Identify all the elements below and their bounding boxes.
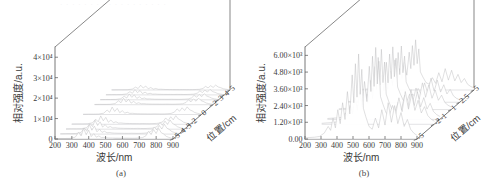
x-tick-label: 400	[331, 141, 343, 150]
z-tick-label: 5	[472, 84, 481, 93]
x-tick-label: 300	[315, 141, 327, 150]
y-tick-label: 3.60×10³	[274, 85, 304, 94]
x-tick-label: 900	[411, 141, 423, 150]
z-axis-label: 位置/cm	[448, 112, 482, 143]
y-tick-label: 1×10⁴	[33, 115, 53, 124]
panel-b-caption: (b)	[243, 168, 485, 178]
x-axis-label: 波长/nm	[96, 151, 133, 163]
y-axis-label: 相对强度/a.u.	[12, 63, 24, 122]
y-tick-label: 2×10⁴	[33, 94, 53, 103]
y-tick-label: 0.00	[289, 135, 303, 144]
y-tick-label: 4×10⁴	[33, 53, 53, 62]
y-tick-label: 6.00×10³	[274, 51, 304, 60]
y-tick-label: 3×10⁴	[33, 74, 53, 83]
y-axis-label: 相对强度/a.u.	[255, 63, 267, 122]
panel-b-plot: 200300400500600700800900波长/nm0.001.20×10…	[243, 0, 485, 194]
x-tick-label: 400	[83, 141, 95, 150]
panel-a-plot: 200300400500600700800900波长/nm01×10⁴2×10⁴…	[0, 0, 242, 194]
x-tick-label: 600	[116, 141, 128, 150]
panel-a: 200300400500600700800900波长/nm01×10⁴2×10⁴…	[0, 0, 242, 194]
panel-a-caption: (a)	[0, 168, 242, 178]
x-tick-label: 300	[66, 141, 78, 150]
z-axis-label: 位置/cm	[204, 112, 238, 143]
x-tick-label: 800	[395, 141, 407, 150]
y-tick-label: 4.80×10³	[274, 68, 304, 77]
y-tick-label: 2.40×10³	[274, 102, 304, 111]
x-tick-label: 500	[100, 141, 112, 150]
x-tick-label: 900	[167, 141, 179, 150]
spectral-waterfall-figure: · · · · · · · · · · · · · · · · · · 2003…	[0, 0, 485, 194]
y-tick-label: 0	[49, 135, 53, 144]
x-tick-label: 700	[379, 141, 391, 150]
y-tick-label: 1.20×10³	[274, 118, 304, 127]
x-tick-label: 700	[133, 141, 145, 150]
panel-b: 200300400500600700800900波长/nm0.001.20×10…	[243, 0, 485, 194]
z-tick-label: 5	[228, 84, 237, 93]
x-axis-label: 波长/nm	[343, 151, 380, 163]
x-tick-label: 500	[347, 141, 359, 150]
x-tick-label: 800	[150, 141, 162, 150]
x-tick-label: 600	[363, 141, 375, 150]
